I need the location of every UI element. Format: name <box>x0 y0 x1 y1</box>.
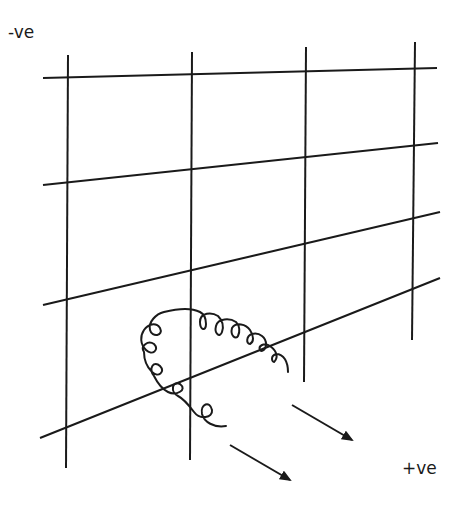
slanted-grid-line <box>40 278 440 438</box>
grid-diagram <box>0 0 468 508</box>
lower-arrow-icon <box>230 445 290 480</box>
vertical-grid-line <box>190 52 192 460</box>
slanted-grid-line <box>43 68 437 78</box>
slanted-grid-line <box>43 143 438 185</box>
vertical-grid-lines <box>66 42 415 468</box>
vertical-grid-line <box>412 42 415 340</box>
slanted-grid-lines <box>40 68 440 438</box>
upper-arrow-icon <box>292 405 352 440</box>
direction-arrows <box>230 405 352 480</box>
slanted-grid-line <box>43 212 440 305</box>
vertical-grid-line <box>66 55 68 468</box>
